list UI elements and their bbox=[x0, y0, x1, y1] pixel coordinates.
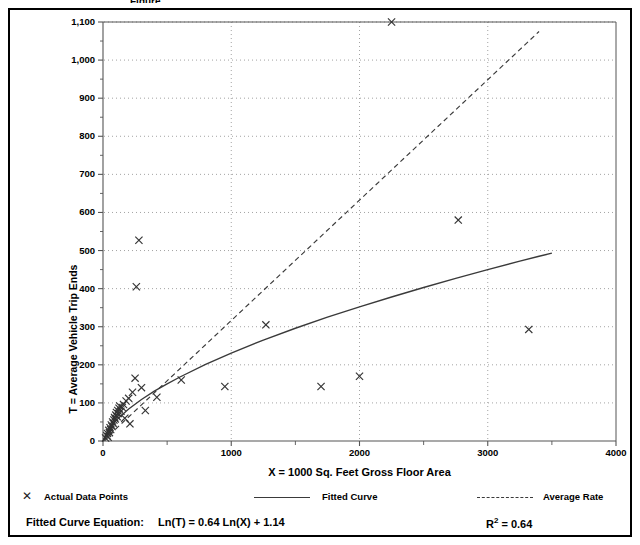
data-point-marker bbox=[129, 389, 136, 396]
data-point-marker bbox=[125, 395, 132, 402]
data-point-marker bbox=[317, 383, 324, 390]
data-point-marker bbox=[131, 375, 138, 382]
x-marker-icon: ✕ bbox=[22, 489, 32, 503]
r-squared-value: R2 = 0.64 bbox=[486, 516, 532, 530]
data-point-marker bbox=[133, 283, 140, 290]
chart-legend: ✕ Actual Data Points Fitted Curve Averag… bbox=[22, 489, 622, 505]
data-point-marker bbox=[221, 383, 228, 390]
data-point-marker bbox=[262, 321, 269, 328]
solid-line-icon bbox=[254, 497, 310, 498]
equation-row: Fitted Curve Equation: Ln(T) = 0.64 Ln(X… bbox=[26, 516, 620, 534]
r-squared-base: R bbox=[486, 518, 494, 530]
data-point-marker bbox=[126, 420, 133, 427]
data-point-marker bbox=[138, 384, 145, 391]
r-squared-rest: = 0.64 bbox=[498, 518, 532, 530]
legend-label-fitted-curve: Fitted Curve bbox=[322, 491, 377, 502]
equation-formula: Ln(T) = 0.64 Ln(X) + 1.14 bbox=[158, 516, 285, 528]
equation-prefix: Fitted Curve Equation: bbox=[26, 516, 144, 528]
figure-page: Figure T = Average Vehicle Trip Ends 010… bbox=[0, 0, 640, 545]
data-point-marker bbox=[142, 407, 149, 414]
average-rate-line bbox=[103, 32, 539, 441]
data-point-marker bbox=[135, 237, 142, 244]
legend-label-average-rate: Average Rate bbox=[543, 491, 603, 502]
data-point-marker bbox=[455, 216, 462, 223]
plot-area bbox=[0, 0, 640, 545]
fitted-curve-equation: Fitted Curve Equation: Ln(T) = 0.64 Ln(X… bbox=[26, 516, 285, 528]
data-point-marker bbox=[153, 394, 160, 401]
data-point-marker bbox=[178, 376, 185, 383]
dashed-line-icon bbox=[477, 497, 533, 498]
axis-ticks bbox=[98, 22, 616, 446]
data-point-markers bbox=[102, 18, 532, 441]
fitted-curve-line bbox=[103, 253, 552, 441]
legend-label-actual-data-points: Actual Data Points bbox=[44, 491, 128, 502]
